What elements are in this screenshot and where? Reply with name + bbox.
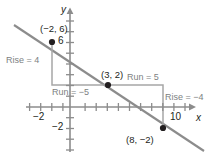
line-graph-figure: y x −2 10 6 −2 (−2, 6) (3, 2) (8, −2) Ri…: [0, 0, 213, 163]
rise-left-label: Rise = 4: [6, 56, 39, 65]
point-label-c: (8, −2): [126, 135, 154, 145]
point-marker: [160, 125, 166, 131]
y-tick-label-6: 6: [58, 36, 64, 46]
point-marker: [49, 39, 55, 45]
x-tick-label-10: 10: [170, 112, 181, 122]
rise-right-label: Rise = −4: [165, 93, 204, 102]
y-tick-label-neg2: −2: [52, 122, 63, 132]
y-axis-label: y: [61, 5, 66, 15]
point-marker: [105, 82, 111, 88]
x-axis-arrow: [189, 104, 196, 111]
x-tick-label-neg2: −2: [33, 112, 44, 122]
y-axis-arrow: [67, 8, 74, 15]
point-label-b: (3, 2): [101, 70, 123, 80]
rise-run-guide-left: [52, 42, 108, 85]
run-left-label: Run = −5: [52, 88, 89, 97]
run-right-label: Run = 5: [127, 73, 159, 82]
x-axis-label: x: [196, 113, 201, 123]
point-label-a: (−2, 6): [40, 24, 68, 34]
graph-line: [14, 25, 204, 151]
graph-canvas: [0, 0, 213, 163]
